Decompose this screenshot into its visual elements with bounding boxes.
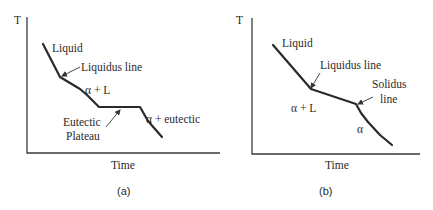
label-alpha-plus-l-a: α + L xyxy=(85,84,110,96)
label-alpha-plus-eutectic-a: α + eutectic xyxy=(146,113,200,125)
y-axis-label-a: T xyxy=(14,14,21,26)
label-solidus-b: Solidus xyxy=(372,78,407,90)
label-eutectic-a: Eutectic xyxy=(63,116,101,128)
caption-a: (a) xyxy=(117,185,130,197)
label-alpha-b: α xyxy=(357,123,363,135)
label-solidus-line-b: line xyxy=(380,93,397,105)
y-axis-label-b: T xyxy=(236,14,243,26)
arrow-liquidus-a xyxy=(62,67,80,76)
axes-a xyxy=(27,17,220,153)
label-liquid-b: Liquid xyxy=(282,37,313,50)
arrow-solidus-b xyxy=(358,97,373,104)
cooling-curves-figure: T Time Liquid Liquidus line α + L Eutect… xyxy=(0,0,433,210)
label-liquidus-line-a: Liquidus line xyxy=(81,61,142,74)
label-liquid-a: Liquid xyxy=(52,42,83,55)
label-plateau-a: Plateau xyxy=(66,130,100,142)
panel-b: T Time Liquid Liquidus line Solidus line… xyxy=(236,14,420,197)
arrow-liquidus-b xyxy=(311,73,320,88)
x-axis-label-b: Time xyxy=(325,159,349,171)
label-alpha-plus-l-b: α + L xyxy=(291,102,316,114)
caption-b: (b) xyxy=(319,185,332,197)
x-axis-label-a: Time xyxy=(111,159,135,171)
label-liquidus-line-b: Liquidus line xyxy=(320,59,381,72)
arrow-eutectic-a xyxy=(106,110,120,127)
panel-a: T Time Liquid Liquidus line α + L Eutect… xyxy=(14,14,220,197)
